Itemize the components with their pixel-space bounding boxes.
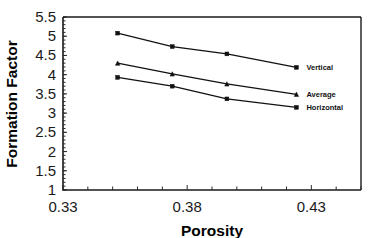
y-tick-label: 3 — [48, 104, 56, 121]
data-point — [225, 97, 229, 101]
series-label-vertical: Vertical — [306, 63, 333, 72]
formation-factor-vs-porosity-chart: 11.522.533.544.555.5 0.330.380.43 Vertic… — [0, 0, 379, 238]
series-label-horizontal: Horizontal — [306, 103, 343, 112]
data-series-group — [115, 31, 298, 109]
data-point — [225, 52, 229, 56]
data-point — [116, 31, 120, 35]
series-line-average — [118, 63, 297, 94]
y-tick-label: 2 — [48, 143, 56, 160]
data-point — [170, 45, 174, 49]
x-tick-label: 0.38 — [173, 198, 202, 215]
y-axis-title: Formation Factor — [3, 40, 20, 167]
y-tick-label: 5.5 — [35, 8, 56, 25]
x-axis-tick-labels: 0.330.380.43 — [48, 198, 326, 215]
data-point — [170, 84, 174, 88]
y-tick-label: 4 — [48, 66, 56, 83]
x-tick-label: 0.33 — [48, 198, 77, 215]
y-tick-label: 4.5 — [35, 46, 56, 63]
y-tick-label: 1 — [48, 181, 56, 198]
chart-page: 11.522.533.544.555.5 0.330.380.43 Vertic… — [0, 0, 379, 238]
y-tick-label: 5 — [48, 27, 56, 44]
data-point — [295, 65, 299, 69]
y-tick-label: 2.5 — [35, 123, 56, 140]
series-label-average: Average — [306, 90, 335, 99]
series-vertical — [116, 31, 299, 69]
data-point — [116, 75, 120, 79]
x-tick-label: 0.43 — [297, 198, 326, 215]
data-point — [295, 105, 299, 109]
y-tick-label: 1.5 — [35, 162, 56, 179]
series-average — [115, 61, 298, 97]
series-line-vertical — [118, 33, 297, 67]
x-axis-title: Porosity — [181, 222, 243, 238]
series-annotations-group: VerticalAverageHorizontal — [306, 63, 343, 112]
y-tick-label: 3.5 — [35, 85, 56, 102]
series-line-horizontal — [118, 77, 297, 107]
y-axis-tick-labels: 11.522.533.544.555.5 — [35, 8, 56, 198]
